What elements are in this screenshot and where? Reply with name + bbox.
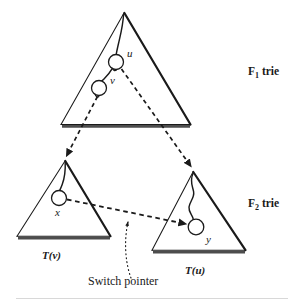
f1-trie-triangle — [61, 13, 191, 126]
trie-switch-pointer-figure: u v x y F1 trie F2 trie T(v) T(u) Switch… — [0, 0, 303, 307]
switch-pointer-caption: Switch pointer — [88, 275, 158, 287]
node-v-circle — [92, 81, 107, 96]
f2-trie-label: F2 trie — [248, 198, 279, 212]
t-u-label: T(u) — [185, 265, 205, 276]
node-u-label: u — [127, 48, 133, 59]
f1-trie-tail: trie — [259, 65, 279, 77]
node-y-label: y — [206, 234, 211, 245]
t-v-right-side — [65, 161, 110, 236]
t-u-right-side — [193, 172, 245, 250]
node-x-label: x — [55, 207, 60, 218]
dashed-pointer-u-to-tu — [122, 69, 192, 167]
f2-trie-tail: trie — [259, 197, 279, 209]
tu-apex-to-y-wavy-path — [189, 174, 194, 220]
f1-trie-label: F1 trie — [248, 66, 279, 80]
f1-trie-letter: F — [248, 65, 255, 77]
node-x-circle — [52, 191, 67, 206]
f1-trie-right-side — [124, 13, 190, 125]
f2-trie-letter: F — [248, 197, 255, 209]
node-y-circle — [188, 219, 204, 235]
node-v-label: v — [110, 75, 115, 86]
dotted-leader-switch-pointer — [126, 222, 131, 278]
t-u-left-side — [152, 172, 193, 250]
bottom-divider — [16, 298, 288, 299]
tv-apex-to-x-path — [60, 163, 66, 191]
t-u-triangle — [152, 172, 246, 252]
t-v-label: T(v) — [42, 250, 61, 261]
node-u-circle — [109, 55, 124, 70]
